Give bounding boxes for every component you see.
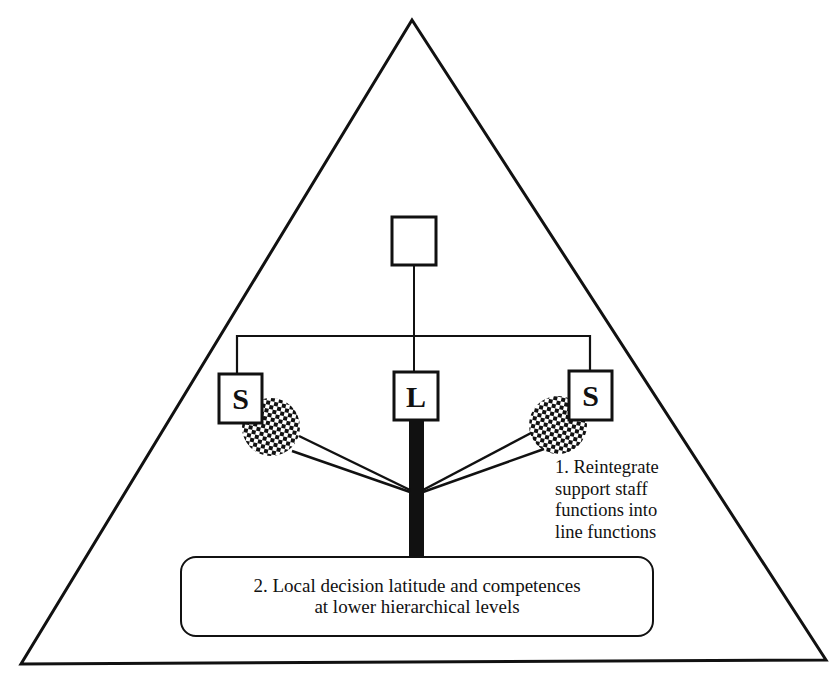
integration-line-right-lower [423, 449, 544, 492]
line-function-bar [409, 420, 424, 557]
annotation-line: at lower hierarchical levels [182, 596, 652, 617]
annotation-line: 2. Local decision latitude and competenc… [182, 575, 652, 596]
annotation-line: support staff [555, 479, 659, 501]
annotation-line: functions into [555, 500, 659, 522]
local-decision-box: 2. Local decision latitude and competenc… [180, 556, 654, 637]
staff-box-left-label: S [232, 382, 249, 415]
integration-line-left-lower [292, 451, 410, 492]
annotation-line: line functions [555, 522, 659, 544]
integration-line-left-upper [299, 436, 410, 490]
top-management-box [392, 217, 436, 265]
staff-box-right-label: S [582, 379, 599, 412]
annotation-line: 1. Reintegrate [555, 457, 659, 479]
annotation-reintegrate-staff: 1. Reintegrate support staff functions i… [555, 457, 659, 543]
integration-line-right-upper [423, 433, 531, 490]
line-box-label: L [406, 380, 426, 413]
